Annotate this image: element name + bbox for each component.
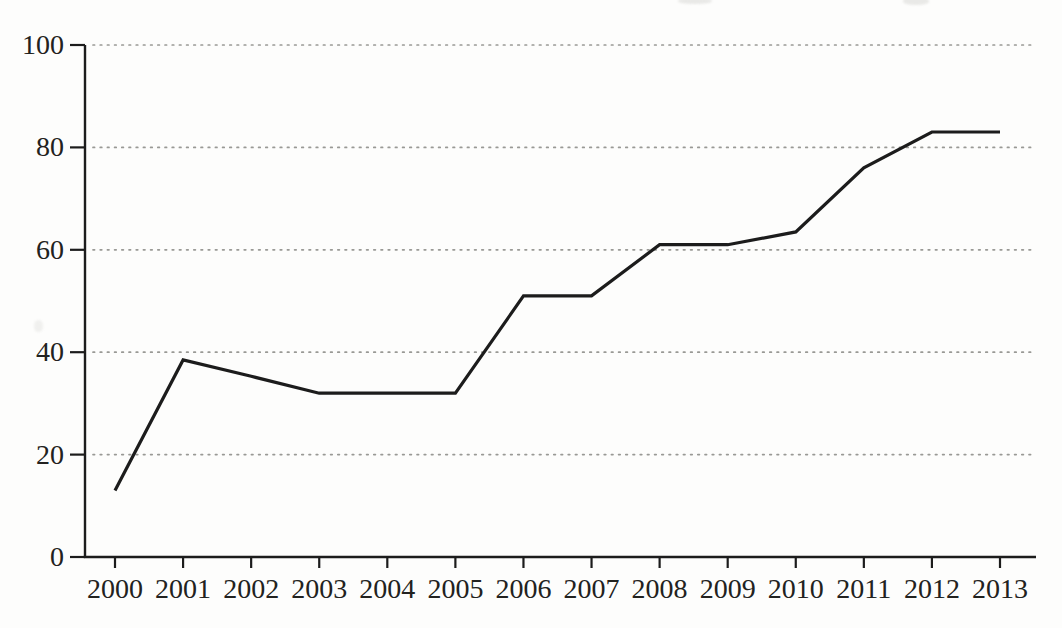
x-tick-label: 2005 (427, 573, 483, 604)
x-tick-label: 2013 (972, 573, 1028, 604)
gridlines (93, 45, 1036, 455)
scanned-line-chart-figure: 020406080100 200020012002200320042005200… (0, 0, 1062, 628)
y-tick-label: 20 (36, 439, 64, 470)
axes (84, 45, 1036, 557)
data-series (115, 132, 1000, 490)
x-tick-label: 2004 (359, 573, 415, 604)
y-tick-label: 40 (36, 336, 64, 367)
y-axis-labels: 020406080100 (22, 29, 64, 572)
x-tick-label: 2000 (87, 573, 143, 604)
y-tick-label: 80 (36, 131, 64, 162)
data-line-series-1 (115, 132, 1000, 490)
axis-ticks (70, 45, 1000, 568)
x-tick-label: 2002 (223, 573, 279, 604)
x-tick-label: 2006 (495, 573, 551, 604)
y-tick-label: 0 (50, 541, 64, 572)
x-tick-label: 2010 (768, 573, 824, 604)
x-tick-label: 2001 (155, 573, 211, 604)
x-tick-label: 2007 (564, 573, 620, 604)
x-tick-label: 2009 (700, 573, 756, 604)
line-chart: 020406080100 200020012002200320042005200… (0, 0, 1062, 628)
x-tick-label: 2008 (632, 573, 688, 604)
x-axis-labels: 2000200120022003200420052006200720082009… (87, 573, 1028, 604)
y-tick-label: 60 (36, 234, 64, 265)
x-tick-label: 2003 (291, 573, 347, 604)
x-tick-label: 2012 (904, 573, 960, 604)
scan-artifact (34, 320, 43, 332)
x-tick-label: 2011 (836, 573, 891, 604)
y-tick-label: 100 (22, 29, 64, 60)
